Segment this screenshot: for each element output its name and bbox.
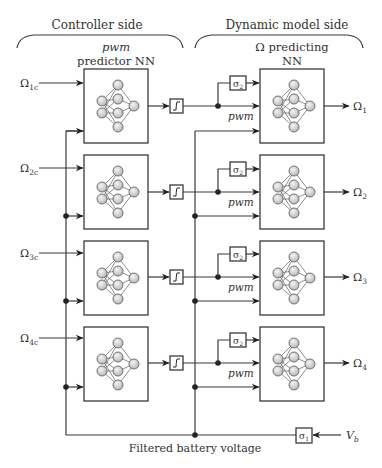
input-label-1: Ω1c xyxy=(20,77,38,92)
sigma-branch-1 xyxy=(218,83,230,106)
output-label-1: Ω1 xyxy=(353,100,367,115)
junction-left-4 xyxy=(63,384,69,390)
output-label-3: Ω3 xyxy=(353,271,367,286)
junction-mid-3 xyxy=(192,298,198,304)
row-2: Ω2c σ2 pwm Ω2 xyxy=(20,155,367,229)
sigma-branch-4 xyxy=(218,340,230,363)
input-label-4: Ω4c xyxy=(20,332,38,347)
left-title-pwm: pwm xyxy=(102,40,130,54)
pwm-label-4: pwm xyxy=(228,367,254,379)
right-title-nn: NN xyxy=(282,54,302,68)
controller-side-header: Controller side xyxy=(51,18,142,32)
sigma-branch-2 xyxy=(218,169,230,192)
junction-left-2 xyxy=(63,213,69,219)
nn-controller-diagram: Controller side Dynamic model side pwm p… xyxy=(0,0,382,468)
controller-brace xyxy=(17,35,183,48)
left-title-predictor: predictor NN xyxy=(77,54,155,68)
row-1: Ω1c σ2 pwm Ω1 xyxy=(20,69,367,143)
filtered-battery-voltage-label: Filtered battery voltage xyxy=(129,442,262,455)
right-title-omega: Ω predicting xyxy=(255,40,329,54)
output-label-2: Ω2 xyxy=(353,186,367,201)
pwm-label-2: pwm xyxy=(228,196,254,208)
vb-label: Vb xyxy=(346,429,359,444)
junction-mid-2 xyxy=(192,213,198,219)
junction-left-3 xyxy=(63,298,69,304)
row-4: Ω4c σ2 pwm Ω4 xyxy=(20,327,367,401)
input-label-2: Ω2c xyxy=(20,162,38,177)
input-label-3: Ω3c xyxy=(20,247,38,262)
junction-mid-4 xyxy=(192,384,198,390)
junction-bottom xyxy=(192,432,198,438)
dynamic-side-header: Dynamic model side xyxy=(226,18,349,32)
sigma-branch-3 xyxy=(218,254,230,277)
row-3: Ω3c σ2 pwm Ω3 xyxy=(20,241,367,315)
pwm-label-1: pwm xyxy=(228,110,254,122)
pwm-label-3: pwm xyxy=(228,281,254,293)
output-label-4: Ω4 xyxy=(353,357,367,372)
